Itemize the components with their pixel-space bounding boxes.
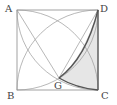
label-b: B xyxy=(7,91,14,101)
shaded-region xyxy=(59,10,98,90)
label-g: G xyxy=(54,81,62,91)
label-a: A xyxy=(5,4,12,14)
label-d: D xyxy=(100,4,108,14)
geometry-diagram: A D B C G xyxy=(0,0,117,105)
line-a-g xyxy=(17,10,59,78)
label-c: C xyxy=(101,91,109,101)
